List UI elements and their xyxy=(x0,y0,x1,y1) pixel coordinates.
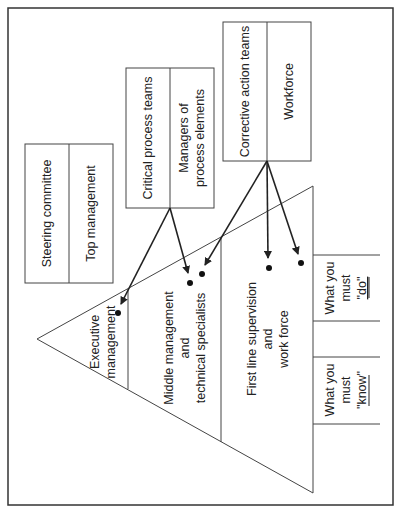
and-label-1: and xyxy=(178,338,192,359)
corrective-action-teams-label: Corrective action teams xyxy=(238,26,252,157)
dot-middle-2 xyxy=(199,271,205,277)
middle-management-label: Middle management xyxy=(162,291,176,405)
what-you-must-know-box: What you must "know" xyxy=(313,357,380,424)
technical-specialists-label: technical specialists xyxy=(194,293,208,403)
know-line1: What you xyxy=(323,364,337,417)
critical-arrows xyxy=(121,208,188,304)
dot-executive xyxy=(115,310,121,316)
dot-middle-1 xyxy=(187,280,193,286)
managers-of-label: Managers of xyxy=(177,103,191,173)
executive-label: Executive xyxy=(88,315,102,369)
corrective-arrows xyxy=(205,161,298,265)
top-management-label: Top management xyxy=(84,165,98,262)
steering-committee-box: Steering committee Top management xyxy=(25,144,113,283)
dot-firstline-1 xyxy=(266,265,272,271)
critical-process-box: Critical process teams Managers of proce… xyxy=(126,68,214,208)
arrow-to-firstline-1 xyxy=(267,161,268,258)
arrow-to-executive xyxy=(121,208,170,304)
corrective-action-box: Corrective action teams Workforce xyxy=(223,22,311,161)
critical-process-teams-label: Critical process teams xyxy=(141,77,155,200)
target-dots xyxy=(115,260,304,316)
dot-firstline-2 xyxy=(298,260,304,266)
management-label: management xyxy=(104,305,118,378)
do-line1: What you xyxy=(323,262,337,315)
steering-committee-label: Steering committee xyxy=(40,160,54,268)
do-line2: must xyxy=(339,274,353,302)
what-you-must-do-box: What you must "do" xyxy=(313,255,380,321)
do-line3: "do" xyxy=(355,277,369,300)
process-elements-label: process elements xyxy=(193,89,207,187)
know-line3: "know" xyxy=(355,371,369,409)
pyramid-diagram: Steering committee Top management Critic… xyxy=(0,0,401,513)
and-label-2: and xyxy=(261,329,275,350)
first-line-supervision-label: First line supervision xyxy=(245,282,259,396)
arrow-to-firstline-2 xyxy=(267,161,298,254)
workforce-label: Workforce xyxy=(282,63,296,120)
work-force-label: work force xyxy=(277,310,291,369)
pyramid: Executive management Middle management a… xyxy=(37,186,313,493)
know-line2: must xyxy=(339,376,353,404)
